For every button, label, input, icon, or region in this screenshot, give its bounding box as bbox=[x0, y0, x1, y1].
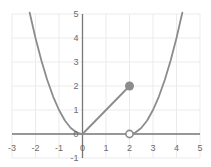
y-tick-label: 4 bbox=[65, 34, 79, 43]
x-tick-label: -3 bbox=[8, 144, 16, 153]
y-tick-label: -1 bbox=[65, 154, 79, 163]
plot-canvas bbox=[0, 0, 211, 167]
x-tick-label: -1 bbox=[55, 144, 63, 153]
x-tick-label: 3 bbox=[150, 144, 155, 153]
y-tick-label: 3 bbox=[65, 58, 79, 67]
x-tick-label: 0 bbox=[80, 144, 85, 153]
y-tick-label: 5 bbox=[65, 10, 79, 19]
y-tick-label: 0 bbox=[65, 130, 79, 139]
x-tick-label: 2 bbox=[127, 144, 132, 153]
y-tick-label: 2 bbox=[65, 82, 79, 91]
x-tick-label: 5 bbox=[197, 144, 202, 153]
grid-lines bbox=[12, 14, 200, 158]
y-tick-label: 1 bbox=[65, 106, 79, 115]
function-graph: -3-2-1012345 -1012345 bbox=[0, 0, 211, 167]
x-tick-label: -2 bbox=[31, 144, 39, 153]
x-tick-label: 4 bbox=[174, 144, 179, 153]
x-tick-label: 1 bbox=[103, 144, 108, 153]
